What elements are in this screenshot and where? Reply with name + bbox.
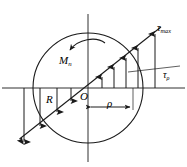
label-tau-rho: τρ <box>163 70 170 80</box>
label-torque-mn: Mn <box>59 55 72 66</box>
stress-envelope-line <box>20 27 162 139</box>
label-tau-max: τmax <box>157 23 171 33</box>
label-center-o: O <box>80 91 88 102</box>
label-radius-r: R <box>46 94 53 105</box>
stress-vectors-positive <box>102 34 155 88</box>
tau-rho-leader-line <box>128 66 180 72</box>
torque-arc-arrow <box>70 39 105 50</box>
label-rho: ρ <box>107 98 112 109</box>
torsion-stress-figure: τmax τρ Mn R O ρ <box>0 0 187 167</box>
